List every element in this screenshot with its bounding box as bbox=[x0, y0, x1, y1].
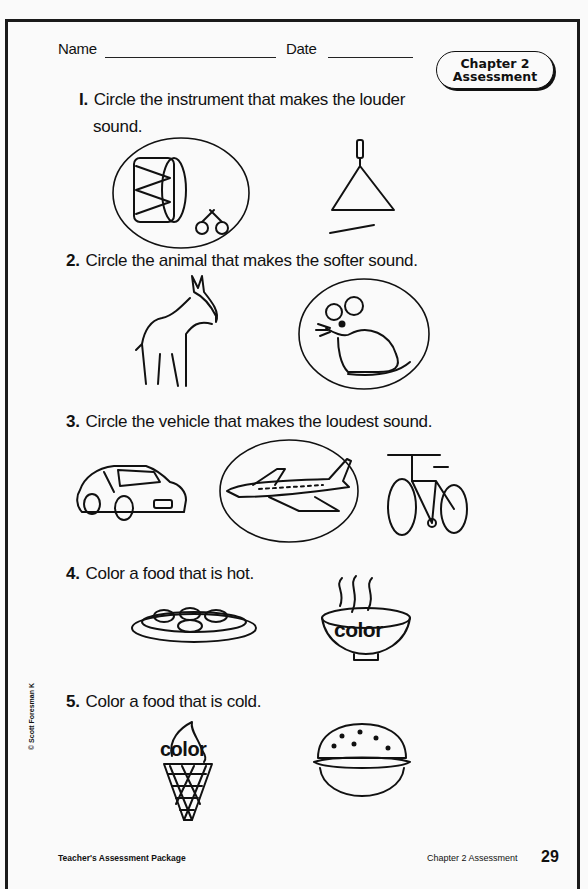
bicycle-icon[interactable] bbox=[386, 451, 470, 539]
hamburger-icon[interactable] bbox=[312, 722, 412, 798]
question-2: 2.Circle the animal that makes the softe… bbox=[66, 251, 418, 271]
copyright-text: © Scott Foresman K bbox=[28, 683, 35, 750]
footer-right: Chapter 2 Assessment bbox=[427, 853, 518, 863]
date-field[interactable] bbox=[328, 57, 413, 58]
date-label: Date bbox=[286, 40, 317, 57]
question-text: Circle the instrument that makes the lou… bbox=[94, 90, 405, 109]
question-number: I. bbox=[79, 90, 88, 109]
hot-soup-bowl-icon bbox=[320, 572, 416, 662]
hot-soup-bowl[interactable]: color bbox=[320, 572, 416, 662]
question-4: 4.Color a food that is hot. bbox=[66, 564, 254, 584]
page-number: 29 bbox=[541, 848, 559, 866]
mouse-icon[interactable] bbox=[298, 278, 430, 390]
drum-and-maracas-icon[interactable] bbox=[112, 136, 252, 250]
ice-cream-cone[interactable]: color bbox=[158, 720, 218, 822]
color-label: color bbox=[334, 618, 383, 642]
chapter-badge: Chapter 2 Assessment bbox=[436, 51, 554, 89]
color-label: color bbox=[160, 738, 206, 761]
triangle-instrument-icon[interactable] bbox=[326, 140, 401, 240]
footer-left: Teacher's Assessment Package bbox=[58, 853, 186, 863]
airplane-icon[interactable] bbox=[219, 439, 361, 543]
question-1-line2: sound. bbox=[93, 117, 142, 137]
salad-plate-icon[interactable] bbox=[130, 600, 260, 646]
badge-line2: Assessment bbox=[437, 70, 553, 83]
donkey-icon[interactable] bbox=[132, 274, 222, 390]
ice-cream-cone-icon bbox=[158, 720, 218, 822]
name-field[interactable] bbox=[105, 57, 276, 58]
name-label: Name bbox=[58, 40, 97, 57]
question-5: 5.Color a food that is cold. bbox=[66, 692, 261, 712]
question-3: 3.Circle the vehicle that makes the loud… bbox=[66, 412, 432, 432]
question-1: I.Circle the instrument that makes the l… bbox=[79, 90, 405, 110]
car-icon[interactable] bbox=[74, 462, 190, 524]
